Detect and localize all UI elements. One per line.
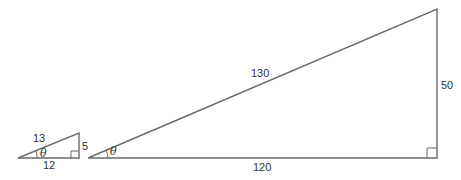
small-triangle: 13 5 12 θ <box>18 132 88 171</box>
triangles-svg: 13 5 12 θ 130 50 120 θ <box>0 0 461 180</box>
small-angle-arc <box>36 151 37 159</box>
large-adjacent-label: 120 <box>253 161 271 173</box>
small-right-angle-marker <box>71 151 79 158</box>
small-hypotenuse-label: 13 <box>33 132 45 144</box>
large-theta-label: θ <box>110 145 117 158</box>
large-hypotenuse-label: 130 <box>251 67 269 79</box>
diagram-canvas: 13 5 12 θ 130 50 120 θ <box>0 0 461 180</box>
small-theta-label: θ <box>40 147 47 160</box>
large-opposite-label: 50 <box>441 79 453 91</box>
large-triangle: 130 50 120 θ <box>88 9 453 173</box>
large-angle-arc <box>106 150 108 158</box>
small-triangle-outline <box>18 133 79 158</box>
large-right-angle-marker <box>427 148 437 158</box>
small-adjacent-label: 12 <box>43 159 55 171</box>
large-triangle-outline <box>88 9 437 158</box>
small-opposite-label: 5 <box>82 140 88 152</box>
